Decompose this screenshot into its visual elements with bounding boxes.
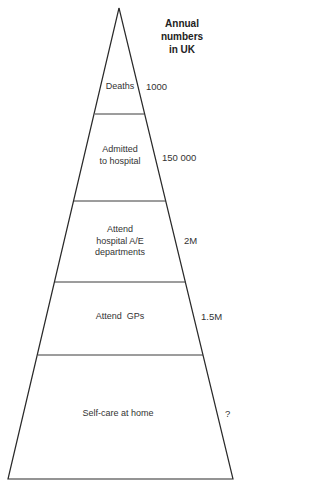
heading-line: Annual (152, 17, 212, 30)
tier-value-deaths: 1000 (146, 81, 167, 93)
tier-label-line: Attend (95, 224, 145, 236)
tier-label-line: Self-care at home (82, 408, 153, 420)
tier-label-ae: Attend hospital A/E departments (95, 224, 145, 259)
tier-label-line: Deaths (106, 81, 135, 93)
tier-label-line: departments (95, 247, 145, 259)
annual-numbers-heading: Annual numbers in UK (152, 17, 212, 56)
tier-label-admitted: Admitted to hospital (99, 144, 140, 167)
tier-label-line: hospital A/E (95, 236, 145, 248)
tier-value-gps: 1.5M (201, 311, 222, 323)
heading-line: numbers (152, 30, 212, 43)
tier-label-line: Admitted (99, 144, 140, 156)
tier-label-line: to hospital (99, 156, 140, 168)
tier-label-deaths: Deaths (106, 81, 135, 93)
tier-label-line: Attend GPs (96, 311, 145, 323)
tier-value-ae: 2M (184, 235, 197, 247)
tier-value-admitted: 150 000 (162, 152, 196, 164)
tier-label-self-care: Self-care at home (82, 408, 153, 420)
tier-value-self-care: ? (225, 408, 230, 420)
heading-line: in UK (152, 43, 212, 56)
tier-label-gps: Attend GPs (96, 311, 145, 323)
